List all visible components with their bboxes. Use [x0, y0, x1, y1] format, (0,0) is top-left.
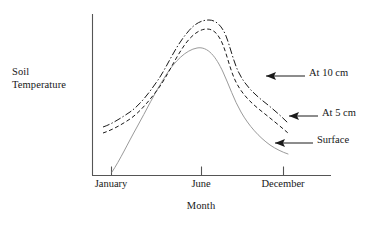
series-line-at-10-cm	[103, 20, 288, 127]
y-axis-label-line1: Soil	[12, 66, 88, 79]
x-axis-ticks	[112, 167, 284, 176]
series-label-surface: Surface	[317, 134, 349, 146]
annotation-arrow-at-5-cm	[289, 112, 318, 120]
y-axis-label-line2: Temperature	[12, 79, 88, 92]
series-label-at-10-cm: At 10 cm	[309, 67, 348, 79]
axis-lines	[92, 14, 331, 176]
soil-temperature-chart: Soil Temperature Month January June Dece…	[0, 0, 368, 225]
x-tick-label-june: June	[156, 178, 246, 190]
chart-canvas	[0, 0, 368, 225]
x-tick-label-december: December	[238, 178, 328, 190]
annotation-arrow-surface	[275, 139, 313, 147]
series-line-surface	[112, 48, 288, 172]
annotation-arrow-at-10-cm	[266, 72, 305, 80]
x-tick-label-january: January	[66, 178, 156, 190]
series-label-at-5-cm: At 5 cm	[322, 107, 356, 119]
y-axis-label: Soil Temperature	[12, 66, 88, 91]
series-line-at-5-cm	[103, 29, 288, 133]
x-axis-label: Month	[159, 200, 243, 213]
